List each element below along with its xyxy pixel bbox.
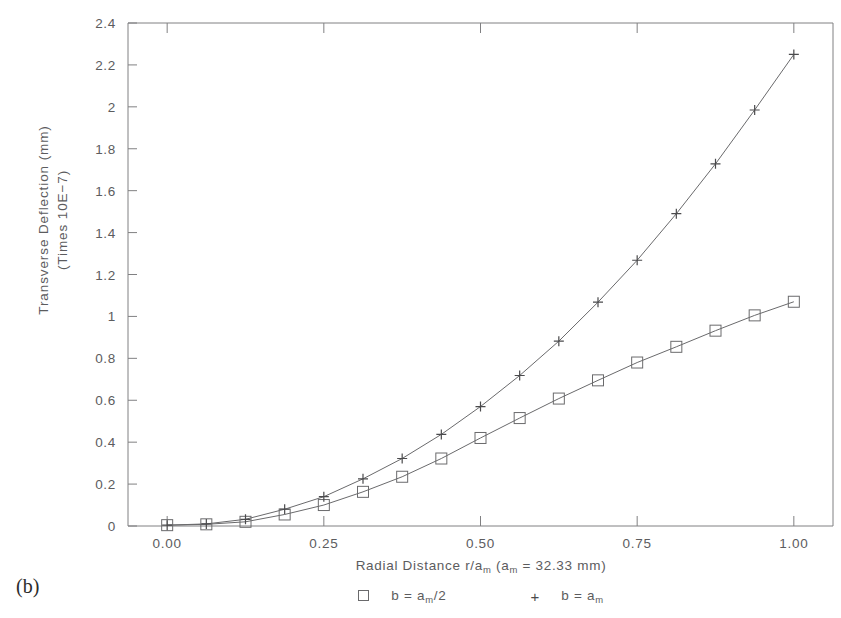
y-axis-tick-label: 0.4	[95, 435, 116, 450]
figure-panel: Transverse Deflection (mm) (Times 10E−7)…	[0, 0, 841, 618]
y-axis-title: Transverse Deflection (mm) (Times 10E−7)	[34, 70, 72, 370]
square-marker-icon	[358, 590, 369, 601]
x-axis-tick-label: 1.00	[779, 536, 808, 551]
y-axis-tick-label: 1.2	[95, 267, 116, 282]
y-axis-tick-label: 0.2	[95, 477, 116, 492]
legend-entry-square-sub: m	[425, 594, 434, 605]
x-axis-title-mid: (a	[492, 558, 510, 573]
legend-entry-square: b = am/2	[358, 588, 446, 603]
x-axis-title-sub1: m	[483, 564, 492, 575]
y-axis-tick-label: 2.4	[95, 16, 116, 31]
plus-marker-icon: +	[529, 588, 541, 605]
plus-marker	[319, 492, 329, 502]
y-axis-tick-label: 0	[108, 519, 116, 534]
y-axis-tick-label: 1.4	[95, 225, 116, 240]
y-axis-tick-label: 0.8	[95, 351, 116, 366]
legend-entry-plus: +b = am	[529, 588, 603, 605]
plus-marker	[397, 454, 407, 464]
plus-marker	[711, 159, 721, 169]
y-axis-tick-label: 1.6	[95, 183, 116, 198]
plus-marker	[750, 105, 760, 115]
panel-label: (b)	[16, 575, 39, 598]
series-line-2	[167, 54, 794, 525]
chart-plot-area	[0, 0, 841, 618]
chart-legend: b = am/2 +b = am	[128, 588, 834, 605]
y-axis-title-line2: (Times 10E−7)	[53, 70, 72, 370]
plus-marker	[280, 504, 290, 514]
series-line-1	[167, 302, 794, 525]
plus-marker	[358, 474, 368, 484]
y-axis-tick-label: 1	[108, 309, 116, 324]
y-axis-tick-label: 2.2	[95, 57, 116, 72]
y-axis-title-line1: Transverse Deflection (mm)	[34, 70, 53, 370]
y-axis-tick-label: 2	[108, 99, 116, 114]
plus-marker	[476, 402, 486, 412]
legend-entry-square-post: /2	[434, 588, 447, 603]
plus-marker	[162, 520, 172, 530]
x-axis-title: Radial Distance r/am (am = 32.33 mm)	[128, 558, 834, 573]
x-axis-tick-label: 0.25	[309, 536, 338, 551]
legend-entry-square-pre: b = a	[391, 588, 425, 603]
y-axis-tick-label: 1.8	[95, 141, 116, 156]
axes-frame	[128, 23, 833, 526]
plus-marker	[789, 49, 799, 59]
x-axis-title-pre: Radial Distance r/a	[356, 558, 483, 573]
series-markers-1	[162, 296, 800, 530]
x-axis-tick-label: 0.00	[153, 536, 182, 551]
x-axis-title-post: = 32.33 mm)	[518, 558, 606, 573]
plus-marker	[241, 514, 251, 524]
x-axis-tick-label: 0.75	[623, 536, 652, 551]
plus-marker	[436, 429, 446, 439]
legend-entry-plus-sub: m	[595, 594, 604, 605]
series-markers-2	[162, 49, 799, 530]
y-axis-tick-label: 0.6	[95, 393, 116, 408]
x-axis-tick-label: 0.50	[466, 536, 495, 551]
x-axis-title-sub2: m	[509, 564, 518, 575]
legend-entry-plus-pre: b = a	[561, 588, 595, 603]
plus-marker	[201, 519, 211, 529]
